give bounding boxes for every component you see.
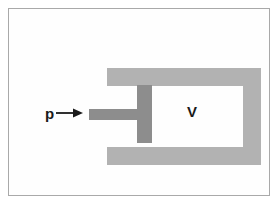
cylinder-wall-bottom — [107, 147, 261, 165]
piston-head — [137, 85, 152, 143]
cylinder-wall-top — [107, 68, 261, 86]
cylinder-wall-right — [243, 68, 261, 165]
figure-root: p V — [0, 0, 279, 206]
piston-rod — [89, 109, 138, 120]
pressure-label: p — [45, 106, 54, 121]
pressure-arrow-icon — [56, 107, 84, 119]
figure-border: p V — [8, 8, 270, 196]
volume-label: V — [187, 104, 197, 119]
